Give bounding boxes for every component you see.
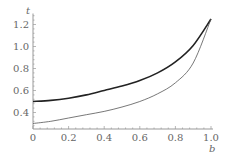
y-tick-label: 1.2 xyxy=(13,19,29,30)
line-chart: 00.20.40.60.81.0 0.40.60.81.01.2 b t xyxy=(0,0,231,156)
data-series xyxy=(33,19,211,124)
y-tick-label: 0.6 xyxy=(13,85,29,96)
y-tick-label: 0.4 xyxy=(13,107,29,118)
lower-curve xyxy=(33,19,211,124)
x-tick-label: 0 xyxy=(30,132,36,143)
y-tick-label: 1.0 xyxy=(13,41,29,52)
x-tick-label: 1.0 xyxy=(203,132,219,143)
x-tick-label: 0.2 xyxy=(61,132,77,143)
upper-curve xyxy=(33,19,211,102)
x-tick-label: 0.4 xyxy=(96,132,112,143)
x-tick-label: 0.8 xyxy=(167,132,183,143)
x-tick-label: 0.6 xyxy=(132,132,148,143)
x-axis-label: b xyxy=(209,143,215,154)
y-tick-label: 0.8 xyxy=(13,63,29,74)
axes xyxy=(33,14,213,130)
y-axis-label: t xyxy=(26,5,31,16)
